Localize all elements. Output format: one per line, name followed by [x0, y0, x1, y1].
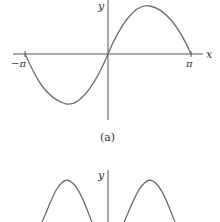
bump-curve-left	[42, 180, 92, 222]
figure: y x −π π (a) y	[0, 0, 220, 222]
tick-label-neg-pi: −π	[11, 58, 26, 69]
chart-a: y x −π π (a)	[11, 0, 213, 144]
chart-b: y	[42, 169, 175, 222]
x-axis-label: x	[206, 48, 213, 61]
y-axis-label-b: y	[97, 169, 105, 182]
y-axis-label: y	[97, 0, 105, 13]
bump-curve-right	[124, 180, 175, 222]
tick-label-pos-pi: π	[185, 58, 193, 69]
caption-a: (a)	[100, 131, 115, 144]
